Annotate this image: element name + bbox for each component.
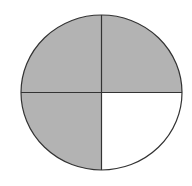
fraction-circle-diagram (0, 0, 192, 186)
quadrant-top-right-shaded (102, 15, 183, 93)
quadrant-bottom-left-shaded (21, 93, 102, 171)
quadrant-bottom-right-unshaded (102, 93, 183, 171)
quadrant-top-left-shaded (21, 15, 102, 93)
